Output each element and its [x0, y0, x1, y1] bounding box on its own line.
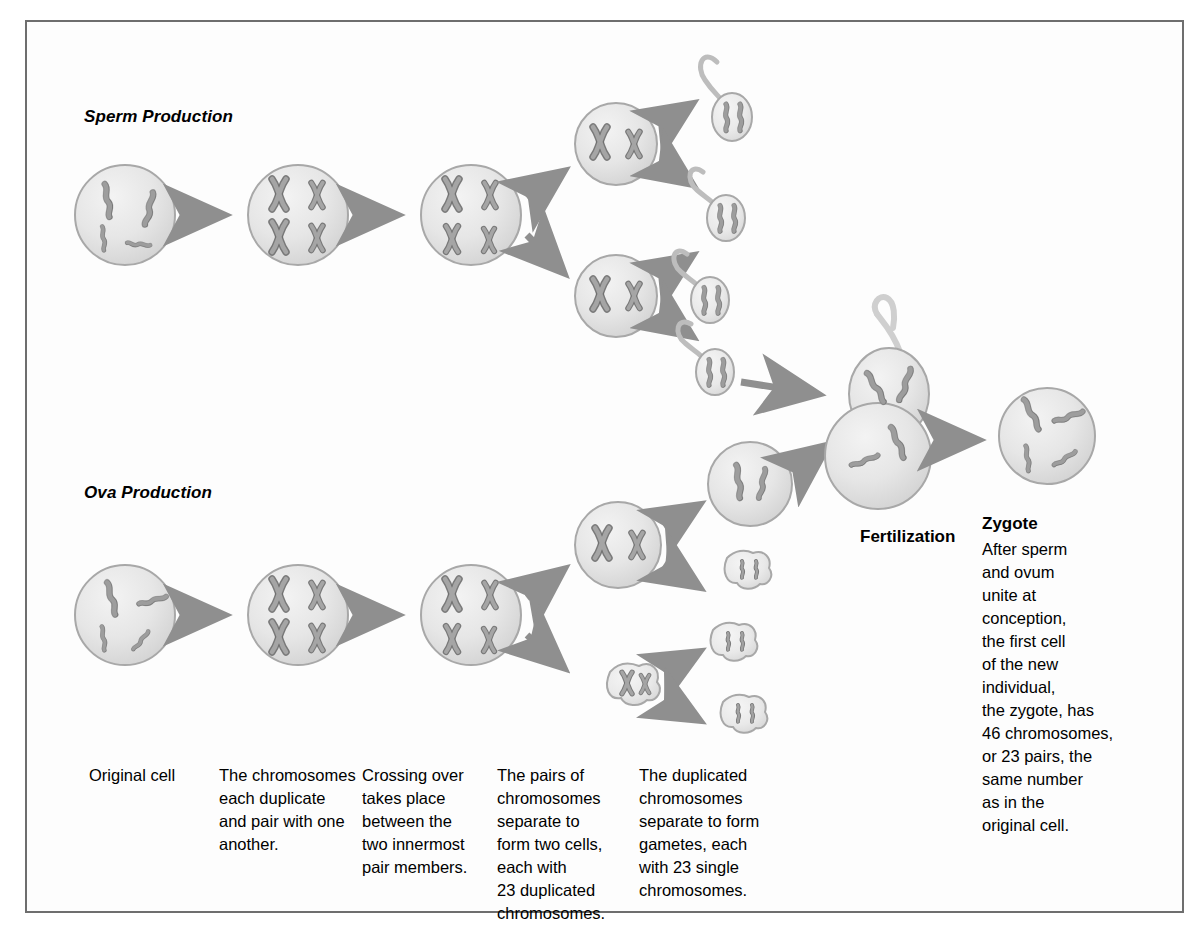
caption-duplication: The chromosomes each duplicate and pair … — [219, 764, 359, 856]
ova-first-polar-body — [607, 664, 660, 706]
sperm-crossingover-cell — [421, 165, 521, 265]
sperm-gamete-1 — [701, 57, 752, 141]
caption-crossing-over: Crossing over takes place between the tw… — [362, 764, 497, 879]
fertilization-label: Fertilization — [860, 527, 955, 547]
ova-production-label: Ova Production — [84, 483, 212, 503]
sperm-gamete-2 — [690, 169, 745, 241]
caption-original-cell: Original cell — [89, 764, 209, 787]
polar-body-3 — [721, 695, 768, 733]
zygote-description: After sperm and ovum unite at conception… — [982, 538, 1162, 837]
ova-duplicated-cell — [248, 565, 348, 665]
sperm-duplicated-cell — [248, 165, 348, 265]
figure-frame: Sperm Production Ova Production Fertiliz… — [25, 20, 1184, 913]
sperm-secondary-cell-upper — [575, 103, 657, 185]
zygote-title: Zygote — [982, 514, 1038, 534]
caption-first-division: The pairs of chromosomes separate to for… — [497, 764, 637, 925]
sperm-secondary-cell-lower — [575, 255, 657, 337]
caption-second-division: The duplicated chromosomes separate to f… — [639, 764, 789, 902]
ovum-gamete — [708, 442, 792, 526]
polar-body-1 — [725, 551, 772, 589]
sperm-original-cell — [75, 165, 175, 265]
polar-body-2 — [711, 623, 758, 661]
fertilization-cell — [825, 297, 931, 509]
sperm-production-label: Sperm Production — [84, 107, 233, 127]
ova-original-cell — [75, 565, 175, 665]
ova-secondary-oocyte — [575, 502, 661, 588]
sperm-gamete-3 — [674, 251, 729, 323]
sperm-gamete-4 — [678, 322, 734, 395]
zygote-cell — [999, 388, 1095, 484]
ova-crossingover-cell — [421, 565, 521, 665]
